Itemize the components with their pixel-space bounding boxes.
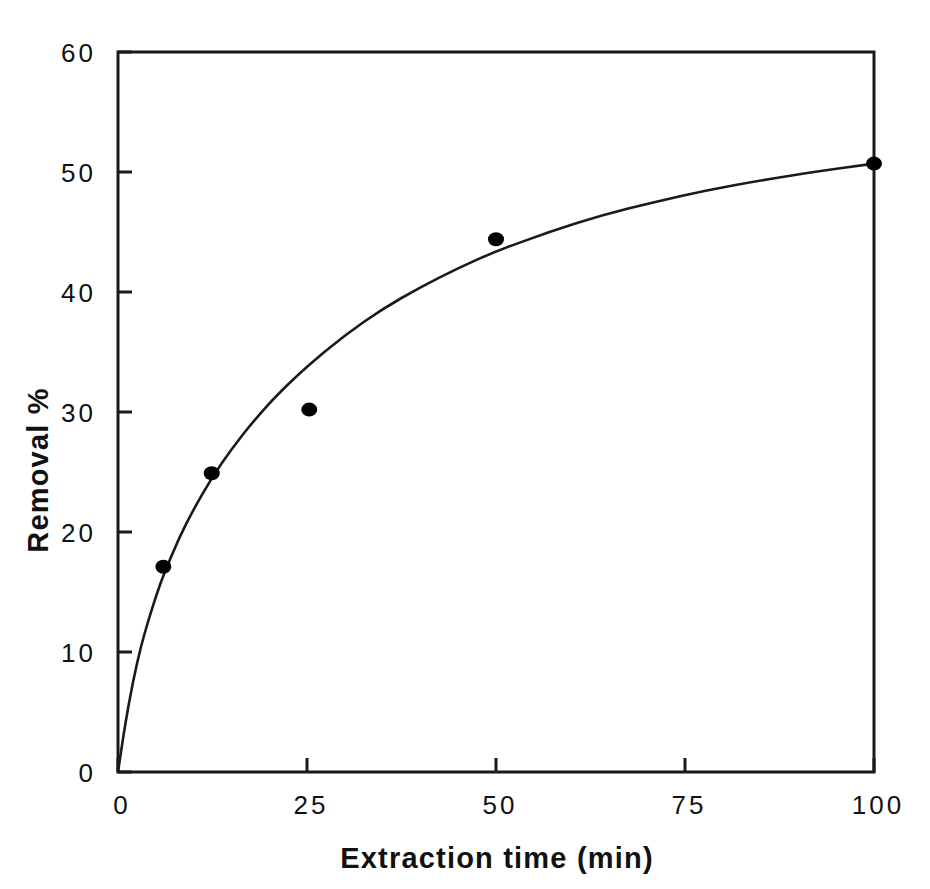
y-axis-tick-label: 30	[61, 398, 96, 428]
y-axis-tick-label: 20	[61, 518, 96, 548]
y-axis-tick-label: 10	[61, 638, 96, 668]
axis-frame-path	[118, 52, 874, 772]
chart-page: 0102030405060 0255075100 Removal % Extra…	[0, 0, 930, 889]
x-axis-tick-label: 75	[672, 790, 707, 820]
y-axis-title: Removal %	[22, 387, 54, 553]
y-axis-tick-label: 60	[61, 38, 96, 68]
x-axis-tick-label-group: 0255075100	[113, 790, 904, 820]
data-point-marker	[155, 560, 171, 574]
x-axis-tick-label: 100	[852, 790, 904, 820]
y-axis-tick-group	[118, 52, 132, 772]
y-axis-tick-label: 40	[61, 278, 96, 308]
plot-frame	[118, 52, 874, 772]
fitted-curve	[118, 164, 874, 772]
y-axis-tick-label: 0	[79, 758, 96, 788]
data-point-marker	[866, 157, 882, 171]
x-axis-tick-label: 25	[294, 790, 329, 820]
data-point-group	[155, 157, 882, 574]
x-axis-tick-group	[118, 758, 874, 772]
x-axis-tick-label: 50	[483, 790, 518, 820]
data-point-marker	[204, 466, 220, 480]
x-axis-tick-label: 0	[113, 790, 130, 820]
y-axis-tick-label: 50	[61, 158, 96, 188]
data-point-marker	[301, 403, 317, 417]
data-point-marker	[488, 232, 504, 246]
y-axis-tick-label-group: 0102030405060	[61, 38, 96, 788]
x-axis-title: Extraction time (min)	[340, 842, 654, 874]
removal-vs-extraction-time-chart: 0102030405060 0255075100 Removal % Extra…	[0, 0, 930, 889]
